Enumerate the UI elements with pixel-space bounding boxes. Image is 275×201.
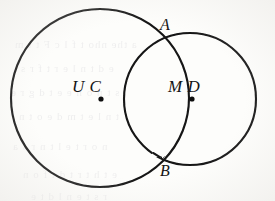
intersection-point-a-label: A — [160, 17, 170, 33]
left-circle-center-label: U C — [72, 78, 101, 95]
left-center-dot — [98, 96, 103, 101]
figure-canvas: a the nho t f l c F t t m e d t n l e r … — [0, 0, 275, 201]
venn-diagram-svg — [0, 0, 275, 201]
intersection-point-b-label: B — [160, 163, 170, 179]
right-circle-center-label: M D — [168, 78, 200, 95]
right-center-dot — [189, 96, 194, 101]
